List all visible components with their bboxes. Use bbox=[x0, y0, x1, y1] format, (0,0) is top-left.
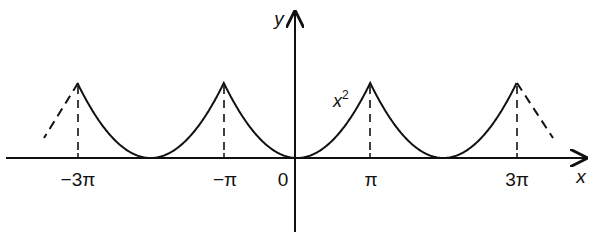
curve-label: x2 bbox=[332, 88, 349, 111]
x-axis-label: x bbox=[575, 166, 587, 187]
curve-label-exponent: 2 bbox=[342, 88, 349, 102]
dashed-continuation-left bbox=[44, 83, 78, 138]
dashed-continuation-right bbox=[517, 83, 553, 138]
periodic-curve bbox=[77, 83, 516, 158]
tick-label-neg-3pi: −3π bbox=[61, 169, 96, 190]
y-axis-label: y bbox=[272, 8, 285, 29]
periodic-x-squared-diagram: −3π −π 0 π 3π x y x2 bbox=[0, 0, 590, 245]
origin-label: 0 bbox=[278, 169, 289, 190]
tick-label-neg-pi: −π bbox=[213, 169, 237, 190]
peak-drop-lines bbox=[78, 86, 517, 156]
tick-label-3pi: 3π bbox=[505, 169, 529, 190]
tick-label-pi: π bbox=[364, 169, 377, 190]
